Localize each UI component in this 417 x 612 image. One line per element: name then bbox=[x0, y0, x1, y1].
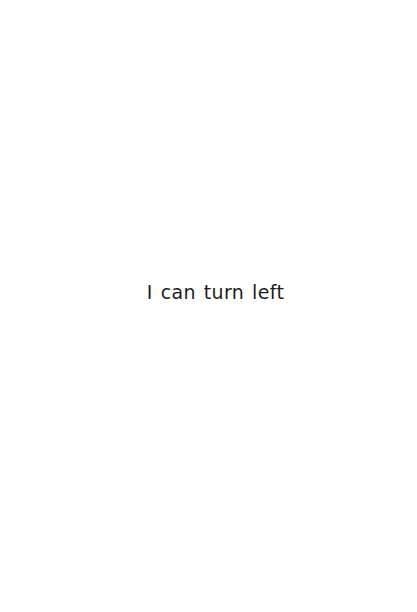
page-canvas: I can turn left bbox=[0, 0, 417, 612]
caption-text: I can turn left bbox=[147, 281, 284, 303]
caption-line: I can turn left bbox=[0, 281, 417, 303]
